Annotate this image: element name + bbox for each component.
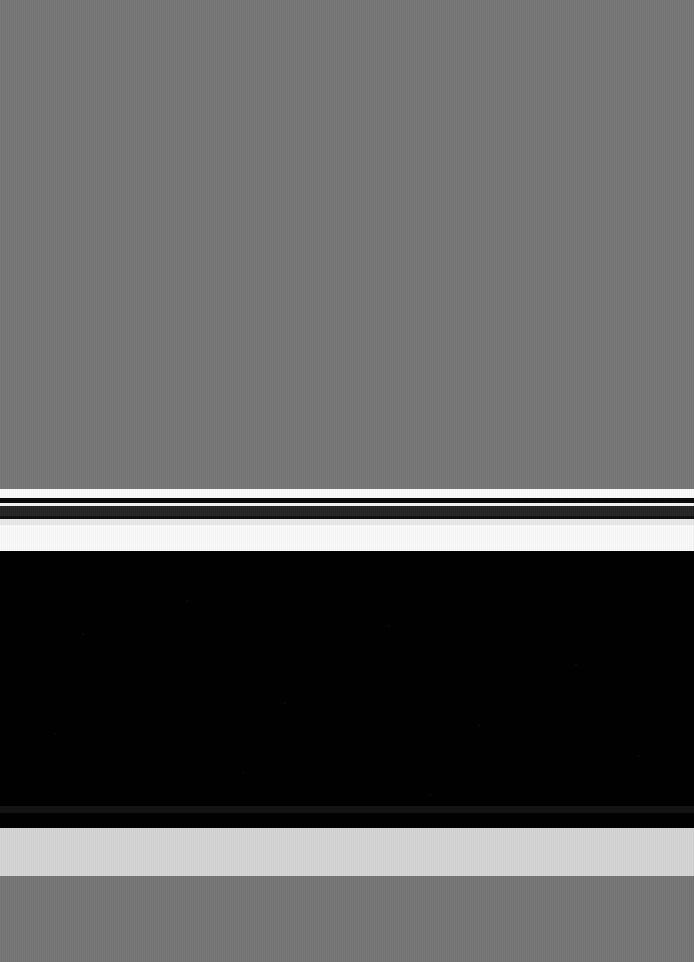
horizontal-scrollbar[interactable] [0,806,694,813]
viewport-noise-overlay [0,551,694,828]
desktop-backdrop-bottom [0,876,694,962]
desktop-backdrop-top [0,0,694,489]
window-tabstrip[interactable] [0,525,694,551]
window-chrome [0,489,694,551]
status-bar[interactable] [0,828,694,876]
window-toolbar[interactable] [0,506,694,516]
window-titlebar[interactable] [0,489,694,498]
content-viewport[interactable] [0,551,694,828]
screenshot-root [0,0,694,962]
